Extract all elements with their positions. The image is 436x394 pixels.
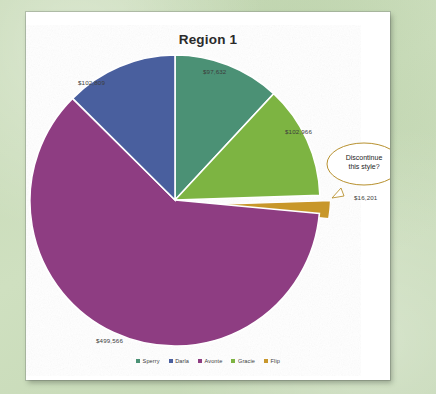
data-label-flip: $16,201 bbox=[354, 194, 377, 201]
callout-line-2: this style? bbox=[327, 162, 401, 171]
legend-label-gracie: Gracie bbox=[238, 358, 255, 364]
data-label-darla: $102,809 bbox=[78, 79, 105, 86]
data-label-sperry: $97,632 bbox=[203, 68, 226, 75]
data-label-avonte: $499,566 bbox=[96, 337, 123, 344]
legend-swatch-darla bbox=[169, 359, 173, 363]
legend-label-darla: Darla bbox=[175, 358, 189, 364]
legend-item-sperry[interactable]: Sperry bbox=[136, 358, 160, 364]
legend-item-darla[interactable]: Darla bbox=[169, 358, 189, 364]
legend-swatch-flip bbox=[264, 359, 268, 363]
legend-label-sperry: Sperry bbox=[143, 358, 160, 364]
legend-label-flip: Flip bbox=[271, 358, 280, 364]
legend-label-avonte: Avonte bbox=[205, 358, 223, 364]
legend-swatch-gracie bbox=[231, 359, 235, 363]
legend-swatch-sperry bbox=[136, 359, 140, 363]
callout-tail bbox=[332, 188, 344, 198]
chart-legend: Sperry Darla Avonte Gracie Flip bbox=[26, 358, 390, 364]
legend-item-avonte[interactable]: Avonte bbox=[198, 358, 222, 364]
data-label-gracie: $102,966 bbox=[285, 128, 312, 135]
chart-card: Region 1 bbox=[26, 12, 390, 380]
legend-item-flip[interactable]: Flip bbox=[264, 358, 280, 364]
legend-swatch-avonte bbox=[198, 359, 202, 363]
callout-annotation: Discontinue this style? bbox=[327, 153, 401, 172]
legend-item-gracie[interactable]: Gracie bbox=[231, 358, 255, 364]
callout-line-1: Discontinue bbox=[327, 153, 401, 162]
